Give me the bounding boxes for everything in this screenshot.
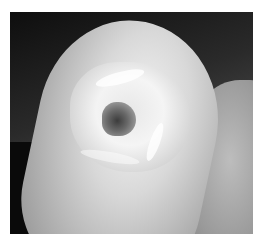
clinical-photo <box>10 12 253 234</box>
lesion <box>102 102 136 136</box>
